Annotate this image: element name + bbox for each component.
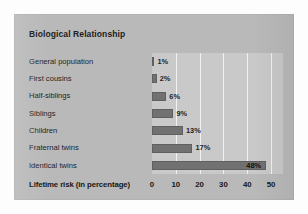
x-tick-10: 10 <box>171 180 180 189</box>
x-tick-20: 20 <box>195 180 204 189</box>
bar-value-label: 6% <box>169 93 180 100</box>
bar-container: 48% <box>152 157 283 174</box>
x-tick-50: 50 <box>267 180 276 189</box>
bar <box>152 144 192 153</box>
x-axis-label: Lifetime risk (in percentage) <box>29 180 130 189</box>
category-label: Siblings <box>29 110 56 118</box>
bar-container: 13% <box>152 122 283 139</box>
bar-value-label: 2% <box>160 75 171 82</box>
bar <box>152 57 154 66</box>
bar-container: 9% <box>152 105 283 122</box>
bar-value-label: 9% <box>176 110 187 117</box>
bar-value-label: 13% <box>186 127 201 134</box>
bar-container: 1% <box>152 53 283 70</box>
bar-value-label: 48% <box>246 162 261 169</box>
chart-figure: Biological Relationship General populati… <box>0 0 308 214</box>
bar-value-label: 17% <box>195 144 210 151</box>
x-axis-ticks: 01020304050 <box>152 180 283 192</box>
bar <box>152 92 166 101</box>
category-label: Fraternal twins <box>29 144 79 152</box>
bar-row: Identical twins48% <box>14 157 294 174</box>
bar-row: Siblings9% <box>14 105 294 122</box>
category-label: Half-siblings <box>29 92 70 100</box>
category-label: First cousins <box>29 75 72 83</box>
bar-row: First cousins2% <box>14 70 294 87</box>
bar-row: Half-siblings6% <box>14 88 294 105</box>
bar-rows: General population1%First cousins2%Half-… <box>14 53 294 174</box>
bar <box>152 126 183 135</box>
bar-row: Fraternal twins17% <box>14 139 294 156</box>
chart-title: Biological Relationship <box>29 29 125 39</box>
bar-container: 6% <box>152 88 283 105</box>
bar-container: 17% <box>152 139 283 156</box>
category-label: Identical twins <box>29 162 77 170</box>
chart-panel: Biological Relationship General populati… <box>14 14 294 200</box>
bar-value-label: 1% <box>157 58 168 65</box>
bar-row: Children13% <box>14 122 294 139</box>
bar-container: 2% <box>152 70 283 87</box>
x-tick-30: 30 <box>219 180 228 189</box>
x-tick-40: 40 <box>243 180 252 189</box>
bar <box>152 74 157 83</box>
bar <box>152 109 173 118</box>
category-label: Children <box>29 127 57 135</box>
bar-row: General population1% <box>14 53 294 70</box>
x-tick-0: 0 <box>150 180 154 189</box>
category-label: General population <box>29 58 93 66</box>
